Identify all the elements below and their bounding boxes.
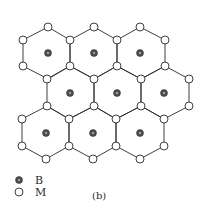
m-atom <box>161 36 169 44</box>
m-atom <box>112 115 120 123</box>
m-atom <box>42 155 50 163</box>
legend-m-label: M <box>35 186 46 199</box>
m-atom <box>66 36 74 44</box>
m-atom <box>43 75 51 83</box>
m-atom <box>90 75 98 83</box>
m-atom <box>137 75 145 83</box>
m-atom <box>90 23 98 31</box>
m-atom <box>19 36 27 44</box>
legend-m-marker-icon <box>15 188 23 196</box>
m-atom <box>66 62 74 70</box>
m-atom <box>112 142 120 150</box>
figure-label: (b) <box>92 190 106 201</box>
m-atom <box>136 155 144 163</box>
m-atom <box>65 142 73 150</box>
m-atom <box>44 23 52 31</box>
m-atom <box>136 23 144 31</box>
m-atom <box>90 102 98 110</box>
m-atom <box>185 75 193 83</box>
m-atom <box>18 142 26 150</box>
m-atom <box>18 115 26 123</box>
m-atom <box>113 62 121 70</box>
m-atom <box>65 115 73 123</box>
m-atom <box>43 102 51 110</box>
legend: B M <box>15 174 46 199</box>
m-atom <box>89 155 97 163</box>
m-atom <box>161 62 169 70</box>
m-atom <box>160 142 168 150</box>
m-atom <box>160 115 168 123</box>
m-atom <box>19 62 27 70</box>
m-atom <box>137 102 145 110</box>
m-atom <box>113 36 121 44</box>
lattice-diagram: B M (b) <box>0 0 204 203</box>
m-atom <box>185 102 193 110</box>
b-atoms <box>43 50 168 137</box>
